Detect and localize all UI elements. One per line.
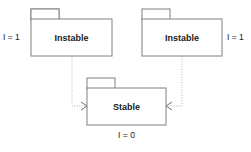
dependency-line: [72, 56, 87, 106]
package-name-label: Stable: [113, 102, 140, 112]
package-name-label: Instable: [165, 33, 199, 43]
package-instable-right[interactable]: Instable: [142, 9, 222, 56]
instability-metric-stable: I = 0: [118, 130, 135, 140]
package-tab-rect: [31, 9, 59, 20]
package-stable-center[interactable]: Stable: [87, 78, 166, 125]
dependency-line: [166, 56, 182, 106]
uml-package-diagram: Instable I = 1 Instable I = 1 Stable I =…: [0, 0, 251, 152]
instability-metric-right: I = 1: [227, 32, 244, 42]
package-instable-left[interactable]: Instable: [31, 9, 112, 56]
instability-metric-left: I = 1: [3, 32, 20, 42]
diagram-canvas: Instable I = 1 Instable I = 1 Stable I =…: [0, 0, 251, 152]
package-tab-rect: [142, 9, 170, 20]
package-name-label: Instable: [54, 33, 88, 43]
package-tab-rect: [87, 78, 115, 89]
dependency-right-to-stable: [166, 56, 182, 110]
dependency-left-to-stable: [72, 56, 87, 110]
